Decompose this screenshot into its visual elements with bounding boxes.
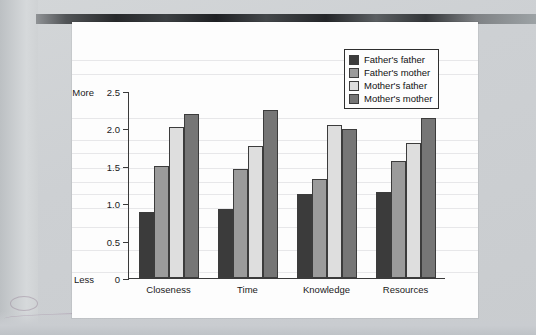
plot-area: 00.51.01.52.02.5 More Less bbox=[128, 92, 444, 279]
bar bbox=[327, 125, 342, 278]
bar bbox=[421, 118, 436, 278]
y-tick-mark bbox=[123, 279, 128, 280]
legend-color-swatch bbox=[349, 55, 359, 65]
bar bbox=[233, 169, 248, 278]
bar bbox=[406, 143, 421, 278]
y-tick-mark bbox=[123, 92, 128, 93]
legend-label: Father's father bbox=[364, 54, 425, 65]
bar bbox=[184, 114, 199, 278]
scan-scuff-mark bbox=[10, 296, 38, 311]
bar bbox=[248, 146, 263, 278]
y-tick-mark bbox=[123, 204, 128, 205]
page-left-margin bbox=[0, 0, 38, 335]
bar-groups bbox=[129, 91, 445, 278]
bar bbox=[154, 166, 169, 278]
legend-color-swatch bbox=[349, 81, 359, 91]
bar bbox=[139, 212, 154, 278]
scanned-page: Father's fatherFather's motherMother's f… bbox=[0, 0, 536, 335]
bar bbox=[218, 209, 233, 278]
bar-group bbox=[129, 91, 208, 278]
bar bbox=[342, 129, 357, 278]
bar bbox=[312, 179, 327, 278]
bar bbox=[263, 110, 278, 278]
y-tick-label: 2.0 bbox=[107, 124, 120, 135]
legend-label: Mother's father bbox=[364, 80, 427, 91]
x-axis-label: Knowledge bbox=[287, 284, 366, 295]
legend-item: Father's mother bbox=[349, 66, 432, 79]
y-tick-label: 0.5 bbox=[107, 236, 120, 247]
y-tick-label: 1.5 bbox=[107, 161, 120, 172]
x-axis bbox=[128, 278, 445, 279]
axis-anchor-less: Less bbox=[74, 274, 94, 285]
y-tick-mark bbox=[123, 167, 128, 168]
y-tick-mark bbox=[123, 129, 128, 130]
bar bbox=[297, 194, 312, 278]
x-axis-label: Time bbox=[208, 284, 287, 295]
legend-color-swatch bbox=[349, 68, 359, 78]
legend-item: Father's father bbox=[349, 53, 432, 66]
y-tick-label: 1.0 bbox=[107, 199, 120, 210]
legend-label: Father's mother bbox=[364, 67, 430, 78]
bar bbox=[169, 127, 184, 278]
y-tick-mark bbox=[123, 242, 128, 243]
bar bbox=[391, 161, 406, 278]
y-tick-label: 2.5 bbox=[107, 87, 120, 98]
bar-group bbox=[208, 91, 287, 278]
bar-group bbox=[366, 91, 445, 278]
x-axis-labels: ClosenessTimeKnowledgeResources bbox=[129, 284, 445, 295]
x-axis-label: Resources bbox=[366, 284, 445, 295]
x-axis-label: Closeness bbox=[129, 284, 208, 295]
y-tick-label: 0 bbox=[115, 274, 120, 285]
bar bbox=[376, 192, 391, 278]
axis-anchor-more: More bbox=[72, 87, 94, 98]
chart-panel: Father's fatherFather's motherMother's f… bbox=[72, 22, 478, 318]
bar-group bbox=[287, 91, 366, 278]
